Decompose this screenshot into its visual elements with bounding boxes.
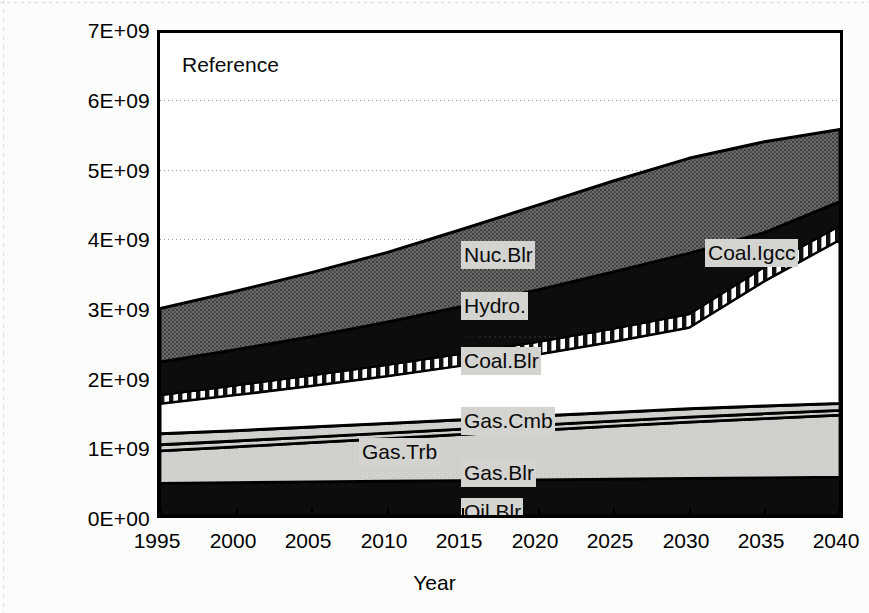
plot-area: Reference Nuc.Blr Hydro. Coal.Blr Coal.I… bbox=[157, 30, 843, 518]
y-tick-minor bbox=[157, 343, 160, 345]
y-tick-minor bbox=[157, 412, 160, 414]
y-tick-label: 5E+09 bbox=[10, 160, 150, 181]
series-label-oil-blr: Oil.Blr bbox=[461, 498, 523, 518]
y-tick-minor bbox=[157, 273, 160, 275]
x-tick bbox=[838, 508, 840, 516]
y-tick-major bbox=[157, 238, 160, 241]
x-tick-label: 2040 bbox=[796, 530, 869, 551]
series-label-gas-blr: Gas.Blr bbox=[461, 459, 536, 487]
x-tick-label: 2010 bbox=[344, 530, 424, 551]
y-tick-label: 0E+00 bbox=[10, 508, 150, 529]
x-tick-label: 2020 bbox=[495, 530, 575, 551]
stacked-area-plot-final bbox=[160, 33, 840, 515]
x-tick-label: 2025 bbox=[570, 530, 650, 551]
x-tick-label: 2035 bbox=[721, 530, 801, 551]
y-tick-major bbox=[157, 169, 160, 172]
y-tick-label: 3E+09 bbox=[10, 299, 150, 320]
y-tick-label: 7E+09 bbox=[10, 20, 150, 41]
y-tick-major bbox=[157, 378, 160, 381]
x-tick bbox=[236, 508, 238, 516]
x-axis-title: Year bbox=[0, 571, 869, 595]
x-tick-label: 2005 bbox=[268, 530, 348, 551]
x-tick-label: 2015 bbox=[419, 530, 499, 551]
y-tick-minor bbox=[157, 482, 160, 484]
scenario-annotation: Reference bbox=[182, 54, 279, 75]
x-tick bbox=[462, 508, 464, 516]
y-tick-label: 6E+09 bbox=[10, 90, 150, 111]
x-tick bbox=[689, 508, 691, 516]
x-tick bbox=[613, 508, 615, 516]
series-label-gas-cmb: Gas.Cmb bbox=[461, 407, 555, 435]
y-axis-labels: 7E+09 6E+09 5E+09 4E+09 3E+09 2E+09 1E+0… bbox=[0, 0, 150, 613]
series-label-coal-igcc: Coal.Igcc bbox=[705, 239, 798, 267]
y-tick-minor bbox=[157, 67, 160, 69]
x-tick bbox=[764, 508, 766, 516]
x-tick-label: 1995 bbox=[117, 530, 197, 551]
y-tick-minor bbox=[157, 204, 160, 206]
series-label-coal-blr: Coal.Blr bbox=[461, 347, 541, 375]
x-tick bbox=[387, 508, 389, 516]
x-tick bbox=[538, 508, 540, 516]
x-tick bbox=[311, 508, 313, 516]
x-axis-labels: 1995 2000 2005 2010 2015 2020 2025 2030 … bbox=[0, 530, 869, 560]
y-tick-label: 4E+09 bbox=[10, 229, 150, 250]
y-tick-major bbox=[157, 99, 160, 102]
x-tick bbox=[160, 508, 162, 516]
y-tick-major bbox=[157, 447, 160, 450]
series-label-hydro: Hydro. bbox=[461, 292, 528, 320]
y-tick-minor bbox=[157, 134, 160, 136]
x-tick-label: 2000 bbox=[193, 530, 273, 551]
y-tick-label: 1E+09 bbox=[10, 438, 150, 459]
leader-line-hydro bbox=[464, 336, 556, 338]
y-tick-major bbox=[157, 308, 160, 311]
series-label-gas-trb: Gas.Trb bbox=[359, 438, 439, 466]
page-frame: 7E+09 6E+09 5E+09 4E+09 3E+09 2E+09 1E+0… bbox=[0, 0, 869, 613]
x-tick-label: 2030 bbox=[646, 530, 726, 551]
series-label-nuc-blr: Nuc.Blr bbox=[461, 241, 535, 269]
plot-inner: Reference Nuc.Blr Hydro. Coal.Blr Coal.I… bbox=[160, 33, 840, 515]
y-tick-major bbox=[157, 32, 160, 35]
y-tick-label: 2E+09 bbox=[10, 369, 150, 390]
